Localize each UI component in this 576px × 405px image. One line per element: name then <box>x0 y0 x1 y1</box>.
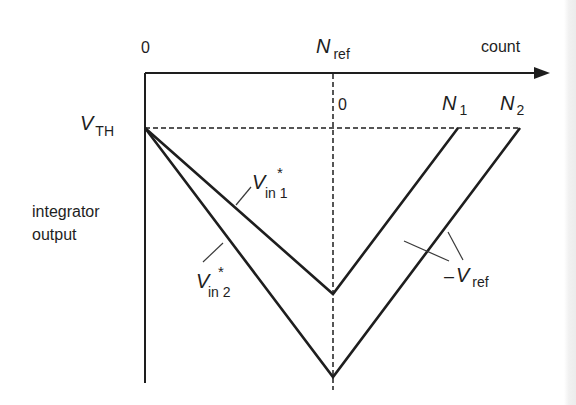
vin2-label: V * in 2 <box>196 263 231 300</box>
count-axis-label: count <box>481 38 521 55</box>
vth-label: VTH <box>80 112 114 139</box>
svg-text:in 1: in 1 <box>265 185 288 201</box>
integrator-timing-diagram: 0 Nref count 0 N1 N2 VTH integrator outp… <box>0 0 576 405</box>
n1-label: N1 <box>442 92 467 118</box>
vin1-label: V * in 1 <box>252 164 288 201</box>
svg-text:*: * <box>277 164 283 181</box>
vin2-leader-line <box>203 243 223 262</box>
y-axis-label-line2: output <box>32 226 77 243</box>
n2-label: N2 <box>500 92 524 118</box>
vin1-leader-line <box>236 187 251 205</box>
nref-label: Nref <box>316 35 350 62</box>
svg-text:in 2: in 2 <box>208 284 231 300</box>
vref-leader-line-1 <box>404 241 449 261</box>
trace-vin1 <box>145 128 458 294</box>
vref-leader-line-2 <box>448 232 463 260</box>
second-zero-label: 0 <box>338 96 347 113</box>
svg-text:*: * <box>218 263 224 280</box>
vref-slope-label: –Vref <box>444 264 489 290</box>
x-axis-arrow-icon <box>534 67 550 79</box>
origin-zero-label: 0 <box>141 39 150 56</box>
y-axis-label-line1: integrator <box>32 203 100 220</box>
